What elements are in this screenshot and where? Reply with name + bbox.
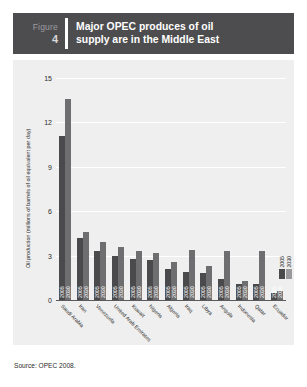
plot-area: 03691215 2005203020052030200520302005203… [56,78,286,300]
figure-title: Major OPEC produces of oil supply are in… [68,13,294,54]
bar-caption-2030: 2030 [153,274,159,298]
bar-year-captions: 20052030 [253,274,265,298]
bar-group[interactable]: 20052030 [233,78,251,300]
x-label-angola: Angola [219,303,235,319]
figure-header: Figure 4 Major OPEC produces of oil supp… [13,13,294,54]
bar-caption-2005: 2005 [59,274,65,298]
x-label-qatar: Qatar [254,303,268,317]
bar-caption-2030: 2030 [118,274,124,298]
y-tick-0: 0 [48,297,52,304]
figure-title-line-2: supply are in the Middle East [76,34,294,47]
bar-caption-2030: 2030 [65,274,71,298]
figure-title-line-1: Major OPEC produces of oil [76,21,294,34]
bar-year-captions: 20052030 [236,274,248,298]
bar-year-captions: 20052030 [147,274,159,298]
bar-group[interactable]: 20052030 [127,78,145,300]
legend-swatch-2030 [286,269,292,279]
x-label-iraq: Iraq [183,303,194,314]
bar-caption-2030: 2030 [189,274,195,298]
y-tick-3: 3 [48,252,52,259]
figure-label: Figure [33,22,58,33]
bar-caption-2005: 2005 [130,274,136,298]
x-label-nigeria: Nigeria [148,303,164,319]
bar-year-captions: 20052030 [130,274,142,298]
source-text: Source: OPEC 2008. [14,362,76,369]
x-label-iran: Iran [77,303,88,314]
y-tick-6: 6 [48,208,52,215]
legend-swatch-2005 [279,269,285,279]
legend-item-2005: 2005 [279,256,285,279]
source-note: Source: OPEC 2008. [14,362,76,369]
bar-year-captions: 20052030 [59,274,71,298]
x-label-algeria: Algeria [166,303,182,319]
bar-caption-2005: 2005 [112,274,118,298]
bar-caption-2030: 2030 [171,274,177,298]
y-tick-15: 15 [44,75,52,82]
figure-number: 4 [52,33,58,46]
bar-caption-2030: 2030 [83,274,89,298]
bar-year-captions: 20052030 [112,274,124,298]
y-tick-9: 9 [48,163,52,170]
bar-caption-2030: 2030 [224,274,230,298]
bar-caption-2030: 2030 [206,274,212,298]
bar-year-captions: 20052030 [183,274,195,298]
bar-caption-2005: 2005 [183,274,189,298]
bar-series-container: 2005203020052030200520302005203020052030… [56,78,286,300]
y-axis-label: Oil production (millions of barrels of o… [25,68,37,268]
bar-caption-2030: 2030 [259,274,265,298]
bar-group[interactable]: 20052030 [251,78,269,300]
bar-caption-2030: 2030 [242,274,248,298]
chart-legend: 2005 2030 [279,256,292,279]
bar-group[interactable]: 20052030 [198,78,216,300]
figure-container: Figure 4 Major OPEC produces of oil supp… [0,0,307,387]
bar-group[interactable]: 20052030 [162,78,180,300]
bar-caption-2005: 2005 [77,274,83,298]
bar-year-captions: 20052030 [200,274,212,298]
legend-label-2030: 2030 [286,256,292,268]
bar-group[interactable]: 20052030 [91,78,109,300]
x-label-ecuador: Ecuador [272,303,290,321]
bar-group[interactable]: 20052030 [144,78,162,300]
bar-year-captions: 20052030 [94,274,106,298]
x-axis-category-labels: Saudi ArabiaIranVenezuelaUnited Arab Emi… [56,301,286,361]
x-label-libya: Libya [201,303,214,316]
bar-2030[interactable] [65,99,71,300]
bar-group[interactable]: 20052030 [56,78,74,300]
x-label-kuwait: Kuwait [130,303,145,318]
bar-caption-2030: 2030 [100,274,106,298]
bar-year-captions: 20052030 [77,274,89,298]
figure-number-block: Figure 4 [13,13,65,54]
legend-item-2030: 2030 [286,256,292,279]
legend-label-2005: 2005 [279,256,285,268]
bar-group[interactable]: 20052030 [109,78,127,300]
bar-year-captions: 20052030 [165,274,177,298]
chart-panel: Oil production (millions of barrels of o… [13,60,294,345]
bar-group[interactable]: 20052030 [215,78,233,300]
y-tick-12: 12 [44,119,52,126]
bar-year-captions: 20052030 [218,274,230,298]
bar-group[interactable]: 20052030 [180,78,198,300]
bar-caption-2005: 2005 [236,274,242,298]
bar-group[interactable]: 20052030 [74,78,92,300]
bar-caption-2030: 2030 [136,274,142,298]
